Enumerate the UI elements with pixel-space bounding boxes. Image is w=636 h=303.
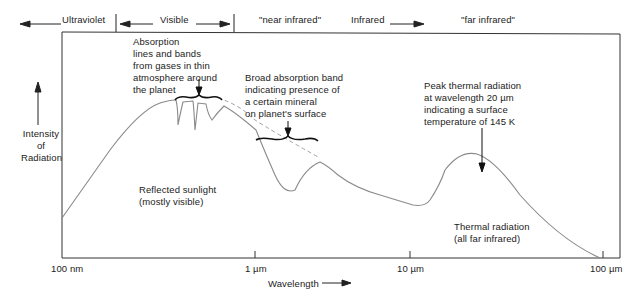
thermal-radiation-label: Thermal radiation (all far infrared): [454, 221, 530, 245]
band-ultraviolet: Ultraviolet: [62, 14, 105, 26]
y-axis-label-line3: Radiation: [21, 152, 61, 164]
tick-100um: 100 µm: [590, 263, 622, 275]
y-axis-label: Intensity of Radiation: [21, 128, 61, 164]
y-axis-label-line2: of: [21, 140, 61, 152]
broad-band-annotation: Broad absorption band indicating presenc…: [245, 72, 343, 120]
y-axis-arrow: [35, 82, 41, 125]
band-near-infrared: "near infrared": [259, 14, 321, 26]
x-axis-arrow: [322, 280, 351, 286]
band-visible: Visible: [160, 14, 189, 26]
broad-band-brace: [256, 136, 318, 141]
tick-1um: 1 µm: [245, 263, 267, 275]
band-infrared: Infrared: [351, 14, 385, 26]
band-far-infrared: "far infrared": [461, 14, 515, 26]
x-axis-label: Wavelength: [268, 278, 319, 290]
spectrum-diagram: [0, 0, 636, 303]
absorption-lines-annotation: Absorption lines and bands from gases in…: [133, 36, 217, 96]
peak-thermal-annotation: Peak thermal radiation at wavelength 20 …: [424, 80, 521, 128]
y-axis-label-line1: Intensity: [21, 128, 61, 140]
reflected-sunlight-label: Reflected sunlight (mostly visible): [139, 184, 216, 208]
tick-100nm: 100 nm: [51, 263, 83, 275]
tick-10um: 10 µm: [397, 263, 424, 275]
